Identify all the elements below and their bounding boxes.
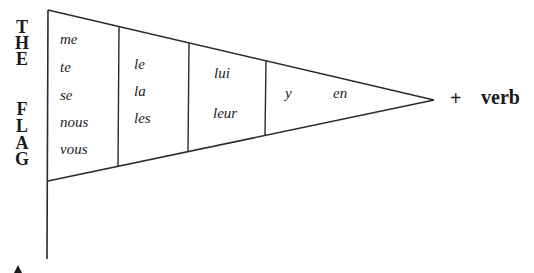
divider-3	[265, 61, 266, 136]
plus-sign: +	[450, 88, 461, 108]
pronoun-lui: lui	[214, 65, 230, 81]
flag-top-edge	[48, 10, 434, 100]
flag-diagram: T H E F L A G me te se nous vous le la l…	[0, 0, 534, 273]
flag-bottom-edge	[48, 100, 434, 181]
pronoun-se: se	[60, 87, 73, 103]
pronoun-le: le	[134, 56, 145, 72]
pronoun-leur: leur	[213, 105, 237, 121]
flag-outline	[0, 0, 534, 273]
flag-pole	[47, 10, 48, 259]
pronoun-me: me	[60, 31, 78, 47]
verb-label: verb	[481, 87, 520, 107]
pronoun-y: y	[285, 85, 292, 101]
pronoun-te: te	[60, 59, 71, 75]
side-letter-g: G	[13, 151, 31, 167]
side-letter-f: F	[13, 101, 31, 117]
pronoun-nous: nous	[60, 114, 88, 130]
pronoun-en: en	[333, 85, 347, 101]
divider-2	[188, 43, 189, 152]
divider-1	[118, 27, 119, 167]
side-letter-e: E	[13, 51, 31, 67]
pronoun-la: la	[134, 83, 146, 99]
pronoun-vous: vous	[60, 141, 88, 157]
pronoun-les: les	[134, 110, 151, 126]
side-letter-l: L	[13, 118, 31, 134]
cutoff-glyph-icon	[14, 265, 22, 273]
